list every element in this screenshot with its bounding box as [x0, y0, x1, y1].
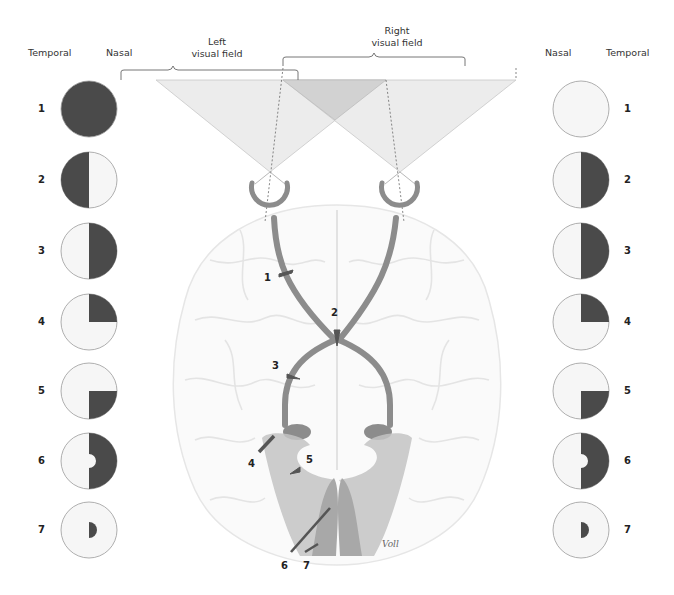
right-row-label-4: 4	[624, 316, 631, 327]
right-field-3	[553, 223, 609, 279]
right-field-4	[553, 294, 609, 350]
left-eye-field-column	[61, 81, 117, 558]
right-field-1	[553, 81, 609, 137]
left-field-7	[61, 502, 117, 558]
right-field-6	[553, 433, 609, 489]
left-field-5	[61, 363, 117, 419]
right-row-label-3: 3	[624, 245, 631, 256]
left-row-label-2: 2	[38, 174, 45, 185]
lesion-label-4: 4	[248, 458, 255, 469]
left-row-label-4: 4	[38, 316, 45, 327]
left-field-3	[61, 223, 117, 279]
artist-signature: Voll	[382, 539, 399, 549]
visual-pathway-diagram	[0, 0, 674, 595]
left-row-label-1: 1	[38, 103, 45, 114]
right-row-label-1: 1	[624, 103, 631, 114]
right-field-7	[553, 502, 609, 558]
lesion-label-1: 1	[264, 272, 271, 283]
lesion-label-5: 5	[306, 454, 313, 465]
left-eye	[252, 183, 288, 205]
left-row-label-7: 7	[38, 524, 45, 535]
right-row-label-7: 7	[624, 524, 631, 535]
lesion-label-6: 6	[281, 560, 288, 571]
lesion-label-7: 7	[303, 560, 310, 571]
right-eye-field-column	[553, 81, 609, 558]
left-field-6	[61, 433, 117, 489]
right-row-label-5: 5	[624, 385, 631, 396]
left-field-4	[61, 294, 117, 350]
left-row-label-5: 5	[38, 385, 45, 396]
lesion-label-2: 2	[331, 307, 338, 318]
right-row-label-6: 6	[624, 455, 631, 466]
left-row-label-6: 6	[38, 455, 45, 466]
right-field-5	[553, 363, 609, 419]
left-field-1	[61, 81, 117, 137]
lesion-label-3: 3	[272, 360, 279, 371]
left-row-label-3: 3	[38, 245, 45, 256]
visual-field-cones	[156, 68, 516, 222]
left-field-brace	[121, 66, 298, 80]
right-eye	[382, 183, 418, 205]
left-field-2	[61, 152, 117, 208]
eyes	[252, 183, 418, 205]
right-field-2	[553, 152, 609, 208]
right-row-label-2: 2	[624, 174, 631, 185]
right-field-brace	[283, 53, 465, 66]
field-braces	[121, 53, 465, 80]
